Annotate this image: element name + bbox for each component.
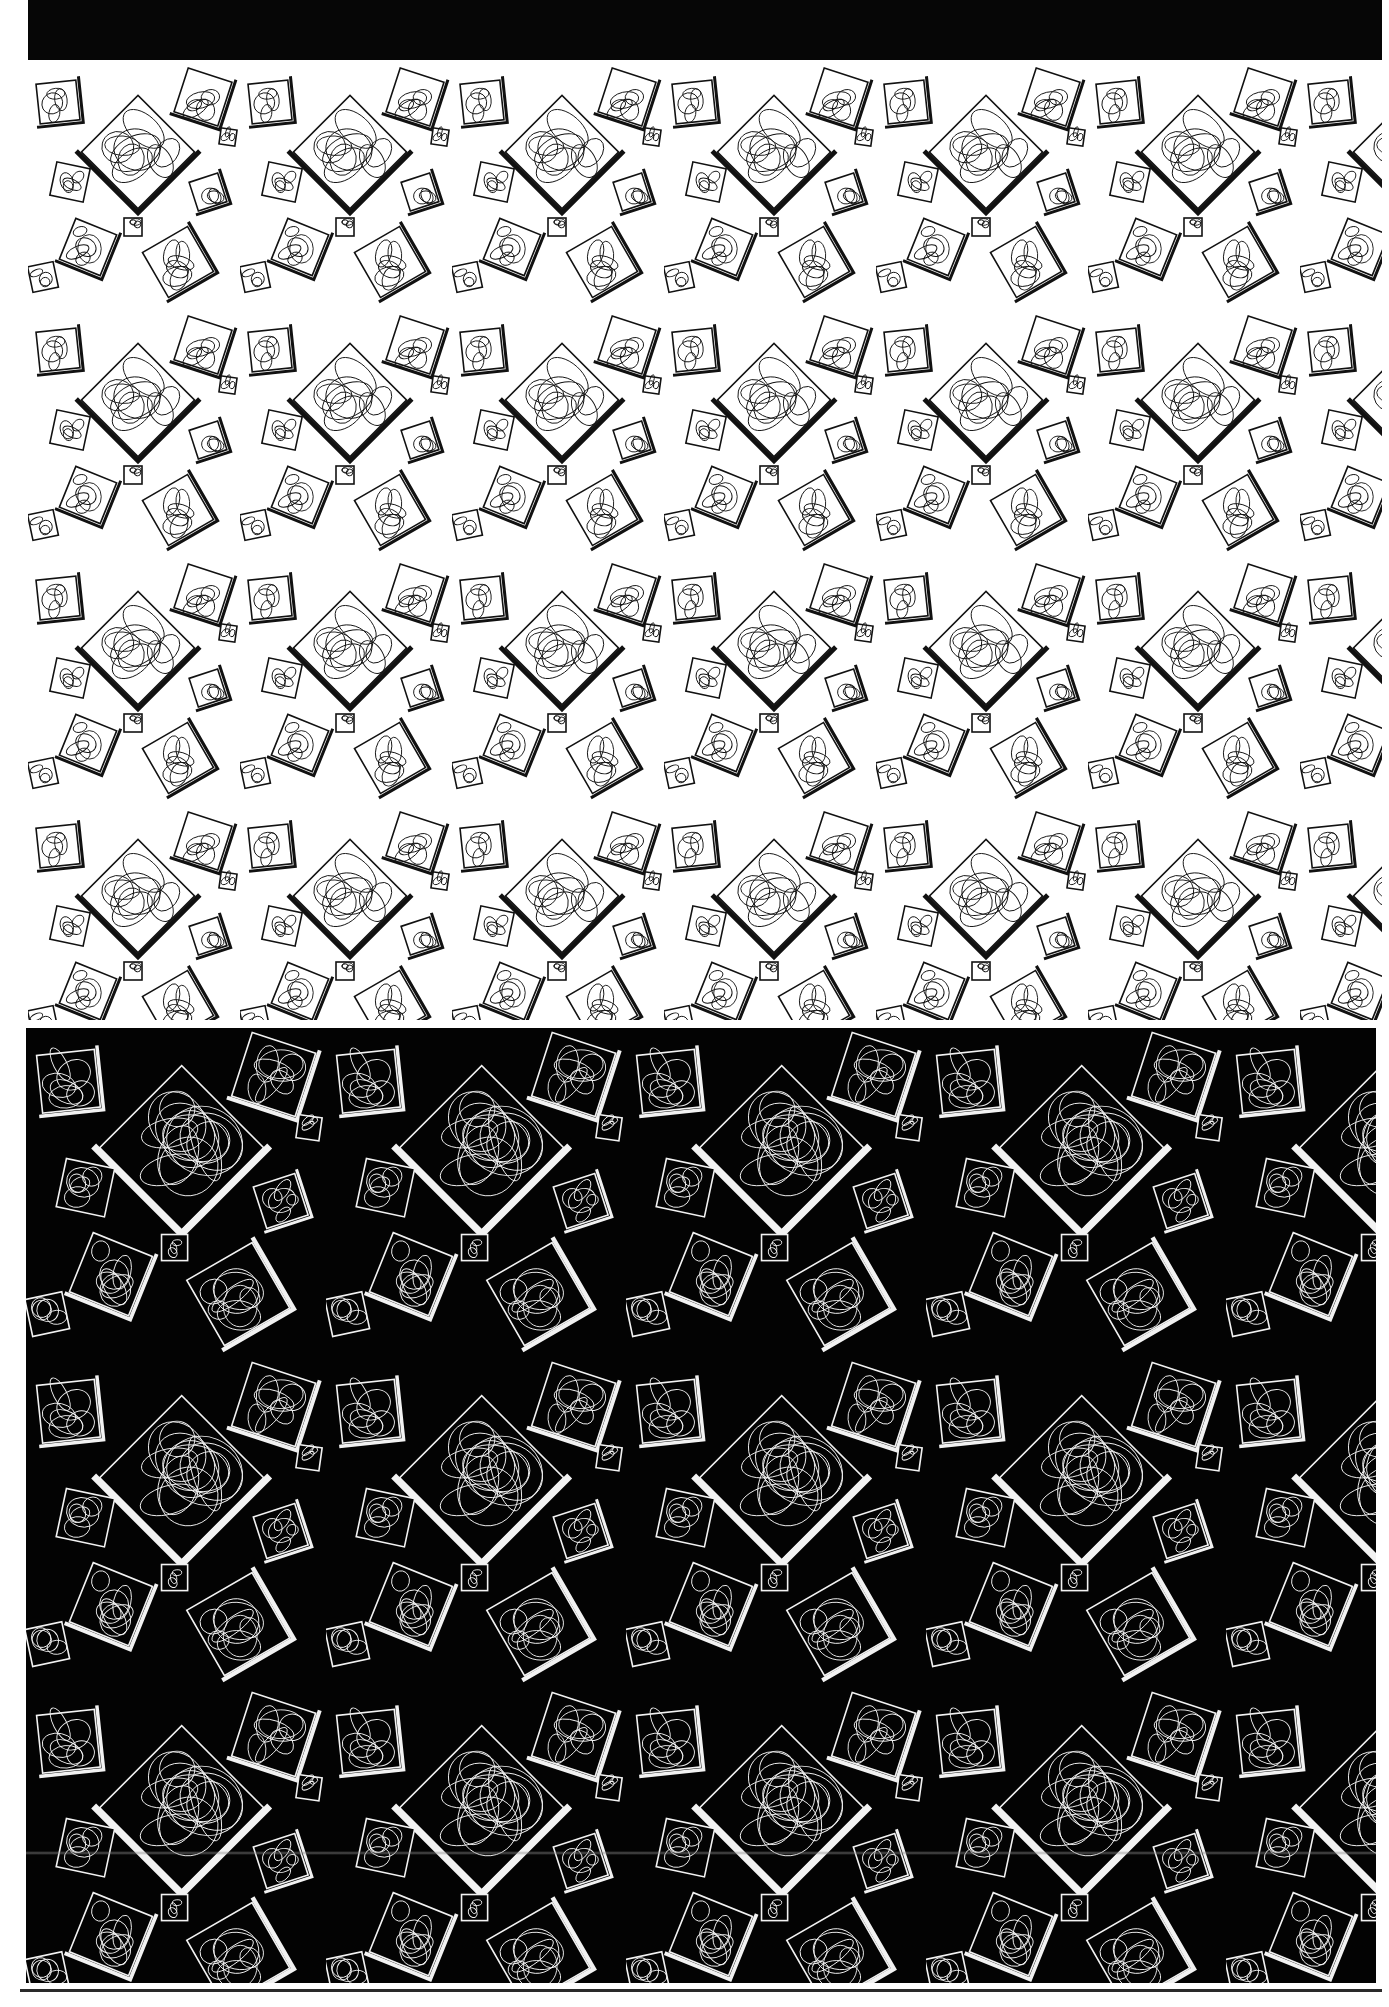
pattern-swatch-light — [28, 62, 1382, 1020]
pattern-swatch-dark — [26, 1028, 1376, 1983]
scribble-squares-pattern-dark — [26, 1028, 1376, 1983]
footer-rule — [20, 1989, 1382, 1992]
scribble-squares-pattern-light — [28, 62, 1382, 1020]
header-band — [28, 0, 1382, 60]
